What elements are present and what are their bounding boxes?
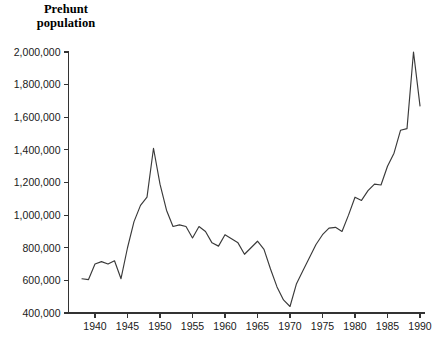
y-tick-label: 800,000: [23, 242, 61, 254]
population-series-line: [82, 52, 420, 306]
x-tick-label: 1965: [246, 320, 270, 332]
y-tick-label: 400,000: [23, 307, 61, 319]
y-tick-label: 2,000,000: [14, 46, 61, 58]
y-tick-label: 600,000: [23, 274, 61, 286]
x-tick-label: 1975: [311, 320, 335, 332]
y-tick-label: 1,400,000: [14, 144, 61, 156]
x-tick-label: 1940: [83, 320, 107, 332]
x-tick-label: 1980: [343, 320, 367, 332]
x-tick-label: 1945: [116, 320, 140, 332]
y-axis: 400,000600,000800,0001,000,0001,200,0001…: [14, 46, 69, 319]
x-tick-label: 1990: [408, 320, 432, 332]
x-tick-label: 1950: [148, 320, 172, 332]
x-tick-label: 1970: [278, 320, 302, 332]
y-tick-label: 1,200,000: [14, 176, 61, 188]
y-tick-label: 1,600,000: [14, 111, 61, 123]
x-tick-label: 1960: [213, 320, 237, 332]
x-axis: 1940194519501955196019651970197519801985…: [69, 313, 432, 332]
chart-container: Prehunt population 400,000600,000800,000…: [0, 0, 438, 360]
x-tick-label: 1955: [181, 320, 205, 332]
y-tick-label: 1,800,000: [14, 78, 61, 90]
line-chart-plot: 400,000600,000800,0001,000,0001,200,0001…: [0, 0, 438, 360]
x-tick-label: 1985: [376, 320, 400, 332]
y-tick-label: 1,000,000: [14, 209, 61, 221]
